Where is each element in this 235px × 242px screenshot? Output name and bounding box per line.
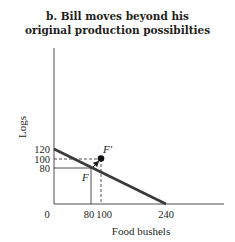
y-axis-label: Logs	[16, 116, 28, 138]
ppf-line	[54, 149, 166, 204]
x-tick-240: 240	[158, 209, 174, 220]
y-tick-80: 80	[40, 163, 51, 174]
x-tick-0: 0	[44, 209, 49, 220]
x-tick-80: 80	[84, 209, 95, 220]
x-axis-label: Food bushels	[112, 225, 170, 237]
point-f-prime	[98, 155, 105, 162]
label-f: F	[81, 171, 89, 183]
chart-plot: F′ F 120 100 80 0 80 100 240 Food bushel…	[0, 0, 235, 242]
shift-arrow	[93, 162, 99, 168]
label-f-prime: F′	[102, 143, 113, 155]
x-tick-100: 100	[96, 209, 112, 220]
